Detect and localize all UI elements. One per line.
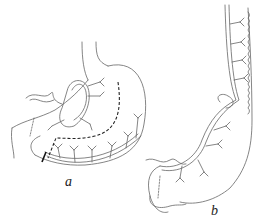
panel-b-drawing [146,5,252,212]
panel-a-drawing [11,42,145,165]
panel-b-label: b [211,203,218,219]
panel-a-label: a [65,174,72,190]
cut-mark [42,152,46,162]
figure-svg [0,0,269,223]
